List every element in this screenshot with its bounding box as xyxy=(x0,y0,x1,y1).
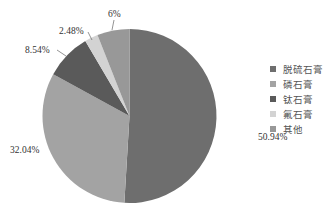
legend-item-fluorogypsum: 氟石膏 xyxy=(270,107,323,122)
legend-label: 磷石膏 xyxy=(283,77,313,91)
leader-line xyxy=(112,20,114,30)
legend-swatch xyxy=(270,66,276,72)
legend-item-other: 其他 xyxy=(270,122,323,137)
slice-label-phosphogypsum: 32.04% xyxy=(10,145,39,155)
legend-label: 其他 xyxy=(283,122,303,136)
leader-line xyxy=(57,50,66,56)
legend-label: 脱硫石膏 xyxy=(283,62,323,76)
slice-label-titanium-gypsum: 8.54% xyxy=(25,45,50,55)
legend-label: 钛石膏 xyxy=(283,92,313,106)
legend-item-phosphogypsum: 磷石膏 xyxy=(270,76,323,91)
legend-label: 氟石膏 xyxy=(283,107,313,121)
legend-item-titanium-gypsum: 钛石膏 xyxy=(270,91,323,106)
legend-item-desulfurization-gypsum: 脱硫石膏 xyxy=(270,61,323,76)
legend-swatch xyxy=(270,96,276,102)
legend-swatch xyxy=(270,111,276,117)
slice-label-fluorogypsum: 2.48% xyxy=(59,26,84,36)
legend-swatch xyxy=(270,126,276,132)
slice-label-other: 6% xyxy=(108,9,121,19)
pie-slices xyxy=(42,29,216,203)
legend: 脱硫石膏 磷石膏 钛石膏 氟石膏 其他 xyxy=(270,61,323,137)
legend-swatch xyxy=(270,81,276,87)
pie-slice-desulfurization-gypsum xyxy=(124,29,216,203)
